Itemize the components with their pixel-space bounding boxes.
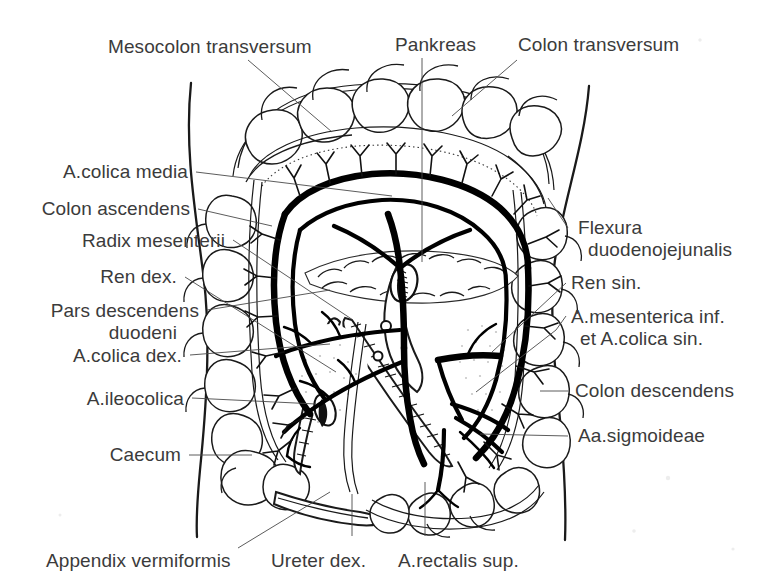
- label-appendix-vermiformis: Appendix vermiformis: [46, 550, 231, 571]
- label-duodeni: duodeni: [109, 322, 177, 343]
- label-a-ileocolica: A.ileocolica: [87, 388, 185, 409]
- colon-ascendens: [184, 180, 286, 466]
- figure-page: Mesocolon transversum Pankreas Colon tra…: [0, 0, 765, 582]
- label-a-colica-dex: A.colica dex.: [73, 345, 182, 366]
- label-mesocolon-transversum: Mesocolon transversum: [108, 36, 312, 57]
- label-duodenojejunalis: duodenojejunalis: [588, 239, 732, 260]
- label-caecum: Caecum: [110, 444, 181, 465]
- label-radix-mesenterii: Radix mesenterii: [82, 230, 225, 251]
- label-ren-dex: Ren dex.: [100, 266, 177, 287]
- label-colon-ascendens: Colon ascendens: [42, 198, 190, 219]
- label-a-colica-media: A.colica media: [63, 161, 188, 182]
- label-pars-descendens: Pars descendens: [51, 300, 199, 321]
- label-pankreas: Pankreas: [395, 34, 476, 55]
- label-et-a-colica-sin: et A.colica sin.: [580, 328, 703, 349]
- label-ren-sin: Ren sin.: [571, 272, 642, 293]
- label-a-mesenterica-inf: A.mesenterica inf.: [571, 306, 725, 327]
- label-colon-descendens: Colon descendens: [575, 380, 734, 401]
- anatomical-illustration: Mesocolon transversum Pankreas Colon tra…: [0, 0, 765, 582]
- label-aa-sigmoideae: Aa.sigmoideae: [578, 425, 705, 446]
- label-flexura: Flexura: [578, 217, 642, 238]
- label-colon-transversum: Colon transversum: [518, 34, 679, 55]
- colon-transversum: [246, 64, 562, 164]
- colon-sigmoideum: [366, 468, 544, 538]
- label-ureter-dex: Ureter dex.: [271, 550, 366, 571]
- label-a-rectalis-sup: A.rectalis sup.: [398, 550, 519, 571]
